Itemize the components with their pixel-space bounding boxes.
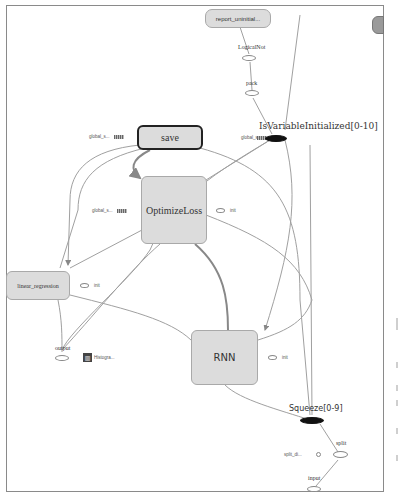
label-logical-not: LogicalNot <box>238 44 265 50</box>
label-pack: pack <box>246 80 257 86</box>
node-label: linear_regression <box>17 283 58 289</box>
label-squeeze: Squeeze[0-9] <box>289 404 343 413</box>
label-split: split <box>336 440 346 446</box>
node-partial-right[interactable]: E <box>372 16 384 34</box>
node-label: OptimizeLoss <box>146 205 202 216</box>
aux-global-step-optimize: global_s... <box>92 208 113 213</box>
node-label: save <box>161 132 179 143</box>
histogram-icon[interactable]: ▥ <box>83 353 92 362</box>
init-rnn-icon <box>268 355 277 360</box>
side-decoration <box>396 400 398 406</box>
aux-init-optimize: init <box>230 208 236 213</box>
aux-init-rnn: init <box>282 355 288 360</box>
node-save[interactable]: save <box>137 125 203 150</box>
label-histogram: Histogra... <box>94 355 115 360</box>
init-optimize-icon <box>216 208 225 213</box>
label-is-variable-initialized: IsVariableInitialized[0-10] <box>259 121 378 131</box>
node-split[interactable] <box>333 451 348 458</box>
node-is-variable-initialized[interactable] <box>265 135 287 142</box>
node-rnn[interactable]: RNN <box>191 330 258 385</box>
side-decoration <box>396 428 398 434</box>
node-label: E <box>376 22 380 28</box>
node-linear-regression[interactable]: linear_regression <box>6 271 70 300</box>
label-input: input <box>308 475 320 481</box>
node-output[interactable] <box>55 355 69 361</box>
init-linear-icon <box>80 283 89 288</box>
node-pack[interactable] <box>245 90 259 96</box>
label-split-dim: split_di... <box>284 452 302 457</box>
graph-edges <box>0 0 409 502</box>
aux-init-linear: init <box>94 283 100 288</box>
node-split-dim[interactable] <box>316 452 321 457</box>
node-label: report_uninitial... <box>216 16 260 22</box>
node-optimize-loss[interactable]: OptimizeLoss <box>141 176 207 244</box>
node-report-uninitialized[interactable]: report_uninitial... <box>205 9 271 28</box>
node-squeeze[interactable] <box>300 417 324 424</box>
side-decoration <box>396 455 398 461</box>
aux-global-step-save: global_s... <box>89 134 110 139</box>
graph-canvas[interactable]: report_uninitial... E LogicalNot pack Is… <box>0 0 409 502</box>
side-decoration <box>396 362 398 368</box>
global-step-icon <box>114 135 124 139</box>
node-input[interactable] <box>307 486 321 492</box>
node-label: RNN <box>214 352 236 363</box>
side-decoration <box>396 318 398 330</box>
label-output: output <box>55 345 70 351</box>
global-step-icon <box>117 209 127 213</box>
side-decoration <box>396 385 398 391</box>
node-logical-not[interactable] <box>242 55 256 61</box>
